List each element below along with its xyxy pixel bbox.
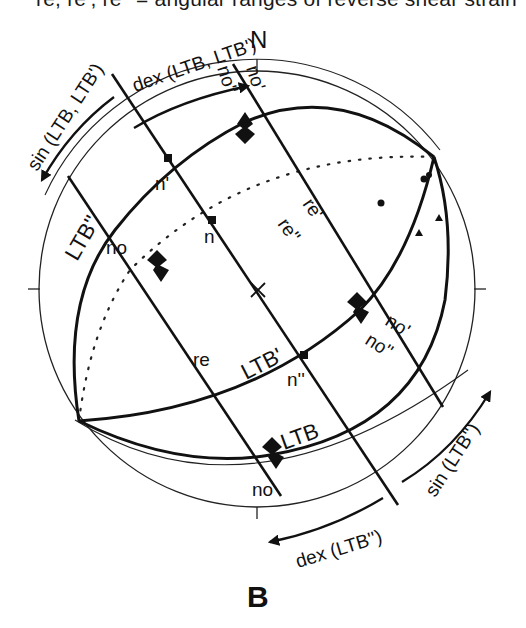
label-ltb: LTB: [277, 418, 322, 455]
label-re-double-prime: re'': [274, 214, 305, 246]
data-point: [378, 200, 385, 207]
label-ltb-prime: LTB': [237, 343, 287, 385]
data-point: [426, 172, 432, 178]
label-no-upper-left: no: [106, 237, 127, 258]
slip-line-2: [112, 74, 398, 505]
label-sin-left: sin (LTB, LTB'): [23, 59, 108, 174]
data-triangle: [435, 214, 443, 221]
great-circle-ltb: [79, 157, 448, 459]
label-no-prime-top: no': [242, 63, 270, 93]
label-no-double-prime-top: no'': [213, 63, 242, 96]
data-triangle: [415, 229, 423, 236]
stereonet-diagram: N dex (LTB, LTB') sin (LTB, LTB') dex (L…: [0, 0, 526, 628]
pole-n-double-prime-marker: [300, 351, 308, 359]
pole-n-prime-marker: [164, 154, 172, 162]
label-no-bottom: no: [252, 479, 273, 500]
label-re-prime: re': [299, 194, 328, 223]
panel-label: B: [247, 580, 269, 613]
label-sin-right: sin (LTB''): [421, 419, 484, 500]
label-re: re: [193, 349, 210, 370]
pole-n-marker: [208, 216, 216, 224]
label-pole-n: n: [204, 226, 215, 247]
label-pole-n-prime: n': [155, 173, 169, 194]
label-pole-n-double-prime: n'': [287, 369, 305, 390]
